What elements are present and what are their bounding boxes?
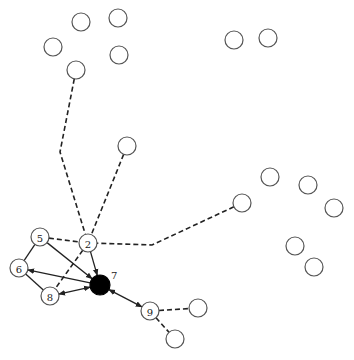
node-circle <box>67 61 85 79</box>
node-circle <box>225 31 243 49</box>
edge-n2-n8 <box>55 250 83 288</box>
node-a2 <box>109 9 127 27</box>
node-d5 <box>286 237 304 255</box>
node-circle <box>109 9 127 27</box>
node-circle <box>325 199 343 217</box>
node-circle <box>110 46 128 64</box>
edge-n2-n7 <box>90 252 97 276</box>
network-diagram: 526879 <box>0 0 354 360</box>
edge-d1-n2 <box>97 207 234 245</box>
node-d3 <box>299 176 317 194</box>
node-circle <box>189 299 207 317</box>
node-c1 <box>118 137 136 155</box>
edge-n5-n2 <box>49 238 79 242</box>
node-circle <box>286 237 304 255</box>
node-n8: 8 <box>41 287 59 305</box>
edge-n7-n9 <box>109 290 142 307</box>
node-circle <box>166 330 184 348</box>
node-b2 <box>259 29 277 47</box>
node-d6 <box>305 258 323 276</box>
edge-a5-n2 <box>60 79 85 235</box>
node-label: 6 <box>16 264 22 275</box>
node-a3 <box>44 38 62 56</box>
node-d4 <box>325 199 343 217</box>
node-e2 <box>166 330 184 348</box>
node-n9: 9 <box>141 302 159 320</box>
edge-n9-e2 <box>156 318 169 333</box>
node-a5 <box>67 61 85 79</box>
node-a4 <box>110 46 128 64</box>
node-circle <box>72 13 90 31</box>
node-circle <box>259 29 277 47</box>
node-label: 8 <box>47 292 53 303</box>
highlighted-node-circle <box>90 275 110 295</box>
node-label: 5 <box>37 233 43 244</box>
node-d2 <box>261 168 279 186</box>
nodes-layer: 526879 <box>10 9 343 348</box>
node-e1 <box>189 299 207 317</box>
edge-n8-n7 <box>59 287 90 294</box>
node-a1 <box>72 13 90 31</box>
node-n5: 5 <box>31 228 49 246</box>
edge-c1-n2 <box>91 154 123 234</box>
node-circle <box>299 176 317 194</box>
edge-n7-n6 <box>28 270 90 283</box>
edge-n5-n6 <box>24 244 35 260</box>
node-label: 9 <box>147 307 153 318</box>
node-circle <box>261 168 279 186</box>
node-label: 2 <box>85 239 91 250</box>
node-n6: 6 <box>10 259 28 277</box>
node-circle <box>233 194 251 212</box>
node-circle <box>118 137 136 155</box>
node-circle <box>44 38 62 56</box>
edge-n9-e1 <box>159 309 189 311</box>
node-n2: 2 <box>79 234 97 252</box>
edge-n6-n8 <box>26 274 44 290</box>
node-circle <box>305 258 323 276</box>
node-label: 7 <box>111 270 117 281</box>
node-d1 <box>233 194 251 212</box>
node-b1 <box>225 31 243 49</box>
